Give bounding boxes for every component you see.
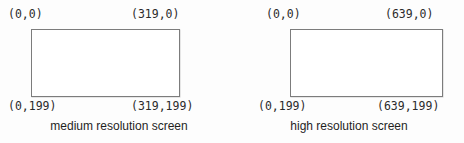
resolution-comparison-figure: (0,0) (319,0) (0,199) (319,199) medium r… — [0, 0, 464, 143]
medium-bottom-right-coordinate-label: (319,199) — [131, 100, 193, 113]
high-resolution-panel: (0,0) (639,0) (0,199) (639,199) high res… — [232, 0, 464, 143]
high-bottom-right-coordinate-label: (639,199) — [377, 100, 439, 113]
high-top-left-coordinate-label: (0,0) — [266, 8, 301, 21]
medium-resolution-screen-rectangle — [31, 29, 180, 97]
medium-resolution-panel: (0,0) (319,0) (0,199) (319,199) medium r… — [0, 0, 232, 143]
medium-top-left-coordinate-label: (0,0) — [8, 8, 43, 21]
medium-bottom-left-coordinate-label: (0,199) — [8, 100, 56, 113]
medium-top-right-coordinate-label: (319,0) — [131, 8, 179, 21]
high-top-right-coordinate-label: (639,0) — [385, 8, 433, 21]
high-resolution-screen-rectangle — [290, 29, 443, 97]
high-resolution-caption: high resolution screen — [232, 119, 464, 134]
high-bottom-left-coordinate-label: (0,199) — [258, 100, 306, 113]
medium-resolution-caption: medium resolution screen — [0, 119, 232, 134]
